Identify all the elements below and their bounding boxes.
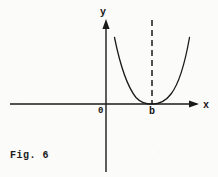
vertex-tick-label: b xyxy=(149,107,155,117)
y-axis-label: y xyxy=(100,8,106,18)
figure-caption: Fig. 6 xyxy=(10,150,49,161)
y-axis-arrowhead xyxy=(102,19,109,29)
x-axis-label: x xyxy=(203,101,209,111)
x-axis-arrowhead xyxy=(189,100,199,107)
origin-label: 0 xyxy=(98,107,103,116)
figure-panel: y x 0 b Fig. 6 xyxy=(0,0,218,177)
